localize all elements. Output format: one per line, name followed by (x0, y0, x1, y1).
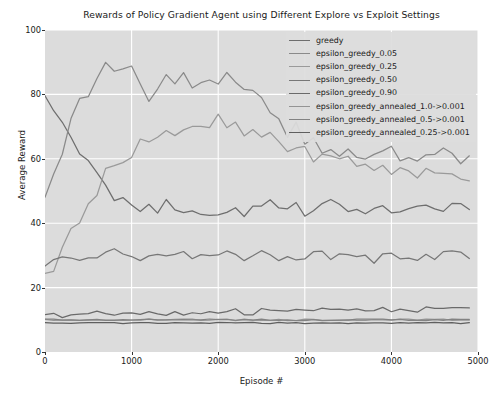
y-tick-label: 100 (0, 25, 41, 35)
y-tick-mark (42, 30, 45, 31)
legend-color-swatch (289, 119, 310, 120)
x-tick-mark (478, 352, 479, 355)
y-tick-label: 60 (0, 154, 41, 164)
x-axis-label: Episode # (45, 376, 478, 386)
legend-item[interactable]: epsilon_greedy_0.25 (286, 60, 476, 73)
legend-item[interactable]: epsilon_greedy_annealed_0.25->0.001 (286, 126, 476, 139)
legend-item[interactable]: epsilon_greedy_0.90 (286, 87, 476, 100)
legend-color-swatch (289, 106, 310, 107)
legend-color-swatch (289, 53, 310, 54)
legend-item-label: epsilon_greedy_0.90 (316, 89, 397, 97)
y-tick-mark (42, 288, 45, 289)
legend-item-label: epsilon_greedy_0.50 (316, 76, 397, 84)
x-tick-label: 1000 (112, 356, 152, 366)
x-tick-mark (45, 352, 46, 355)
y-tick-label: 20 (0, 283, 41, 293)
legend-item[interactable]: greedy (286, 34, 476, 47)
legend-item-label: epsilon_greedy_annealed_0.5->0.001 (316, 116, 465, 124)
series-line (45, 322, 469, 323)
x-tick-mark (218, 352, 219, 355)
y-tick-mark (42, 94, 45, 95)
legend-item[interactable]: epsilon_greedy_0.50 (286, 74, 476, 87)
x-tick-label: 0 (25, 356, 65, 366)
x-tick-mark (132, 352, 133, 355)
legend-color-swatch (289, 40, 310, 41)
legend-item-label: epsilon_greedy_annealed_1.0->0.001 (316, 103, 465, 111)
legend[interactable]: greedyepsilon_greedy_0.05epsilon_greedy_… (286, 32, 476, 142)
y-tick-label: 40 (0, 218, 41, 228)
y-tick-label: 80 (0, 89, 41, 99)
x-tick-mark (305, 352, 306, 355)
legend-color-swatch (289, 93, 310, 94)
legend-item[interactable]: epsilon_greedy_annealed_0.5->0.001 (286, 113, 476, 126)
y-tick-mark (42, 223, 45, 224)
legend-color-swatch (289, 132, 310, 133)
x-tick-label: 4000 (371, 356, 411, 366)
x-tick-label: 2000 (198, 356, 238, 366)
legend-item-label: epsilon_greedy_annealed_0.25->0.001 (316, 129, 470, 137)
figure-canvas: Rewards of Policy Gradient Agent using D… (0, 0, 493, 405)
legend-item-label: epsilon_greedy_0.05 (316, 50, 397, 58)
legend-item[interactable]: epsilon_greedy_0.05 (286, 47, 476, 60)
x-tick-label: 3000 (285, 356, 325, 366)
legend-color-swatch (289, 80, 310, 81)
series-line (45, 307, 469, 318)
legend-item-label: greedy (316, 37, 343, 45)
x-tick-label: 5000 (458, 356, 493, 366)
y-tick-mark (42, 159, 45, 160)
legend-color-swatch (289, 66, 310, 67)
x-tick-mark (391, 352, 392, 355)
series-line (45, 249, 469, 266)
legend-item[interactable]: epsilon_greedy_annealed_1.0->0.001 (286, 100, 476, 113)
legend-item-label: epsilon_greedy_0.25 (316, 63, 397, 71)
chart-title: Rewards of Policy Gradient Agent using D… (45, 9, 478, 20)
